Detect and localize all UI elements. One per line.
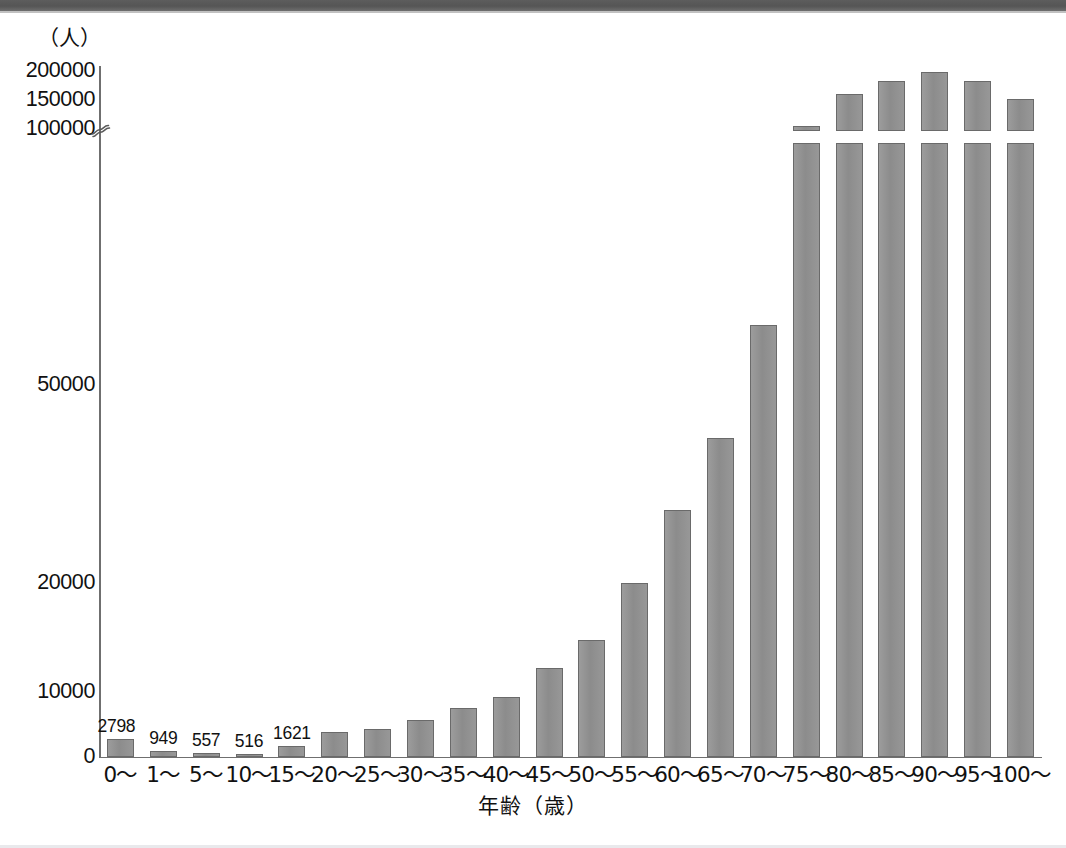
bar-group (313, 0, 356, 848)
y-axis-tick-label: 50000 (3, 374, 95, 396)
bar-group: 516 (228, 0, 271, 848)
bar-lower-segment[interactable] (964, 143, 991, 757)
bar-upper-segment[interactable] (921, 72, 948, 131)
bar[interactable] (364, 729, 391, 757)
bar[interactable] (193, 753, 220, 757)
bar-lower-segment[interactable] (793, 143, 820, 757)
bar-group (528, 0, 571, 848)
bar[interactable] (578, 640, 605, 757)
chart-page: （人） 0100002000050000100000150000200000 2… (0, 0, 1066, 848)
bar-group: 949 (142, 0, 185, 848)
y-axis-tick-label: 10000 (3, 681, 95, 703)
bar-group (356, 0, 399, 848)
bar-group (656, 0, 699, 848)
bar-group (999, 0, 1042, 848)
bar-group (699, 0, 742, 848)
bar-group (613, 0, 656, 848)
bar[interactable] (493, 697, 520, 757)
bar-upper-segment[interactable] (1007, 99, 1034, 131)
bar-lower-segment[interactable] (878, 143, 905, 757)
bar-group (442, 0, 485, 848)
bar[interactable] (750, 325, 777, 757)
bar-group: 2798 (99, 0, 142, 848)
bar[interactable] (150, 751, 177, 757)
bar[interactable] (278, 746, 305, 757)
bar-lower-segment[interactable] (921, 143, 948, 757)
x-axis-tick-labels: 0〜1〜5〜10〜15〜20〜25〜30〜35〜40〜45〜50〜55〜60〜6… (99, 760, 1042, 794)
bar-upper-segment[interactable] (836, 94, 863, 131)
bar-group (742, 0, 785, 848)
bar[interactable] (707, 438, 734, 757)
bar-group (399, 0, 442, 848)
bar-group (956, 0, 999, 848)
bar[interactable] (236, 754, 263, 757)
bar[interactable] (407, 720, 434, 757)
bar[interactable] (664, 510, 691, 757)
bar-upper-segment[interactable] (878, 81, 905, 131)
bar-upper-segment[interactable] (793, 126, 820, 131)
y-axis-tick-labels: 0100002000050000100000150000200000 (0, 0, 95, 848)
plot-area: 0100002000050000100000150000200000 27989… (0, 0, 1066, 848)
y-axis-tick-label: 200000 (3, 60, 95, 82)
bar-group (485, 0, 528, 848)
bar[interactable] (621, 583, 648, 757)
bar-lower-segment[interactable] (1007, 143, 1034, 757)
bar-upper-segment[interactable] (964, 81, 991, 131)
bar-series: 27989495575161621 (99, 0, 1042, 848)
bar[interactable] (536, 668, 563, 757)
bar-lower-segment[interactable] (836, 143, 863, 757)
bar-group (571, 0, 614, 848)
bar-group (913, 0, 956, 848)
bar[interactable] (450, 708, 477, 757)
y-axis-tick-label: 150000 (3, 89, 95, 111)
y-axis-tick-label: 0 (3, 746, 95, 768)
bar-value-label: 1621 (264, 724, 319, 742)
bar-group: 557 (185, 0, 228, 848)
y-axis-tick-label: 100000 (3, 118, 95, 140)
bar[interactable] (107, 739, 134, 757)
x-axis-tick-label: 100〜 (991, 760, 1050, 790)
bar[interactable] (321, 732, 348, 757)
bar-group (828, 0, 871, 848)
bar-group (871, 0, 914, 848)
bar-group: 1621 (270, 0, 313, 848)
bar-group (785, 0, 828, 848)
y-axis-tick-label: 20000 (3, 572, 95, 594)
x-axis-title: 年齢（歳） (0, 793, 1066, 819)
